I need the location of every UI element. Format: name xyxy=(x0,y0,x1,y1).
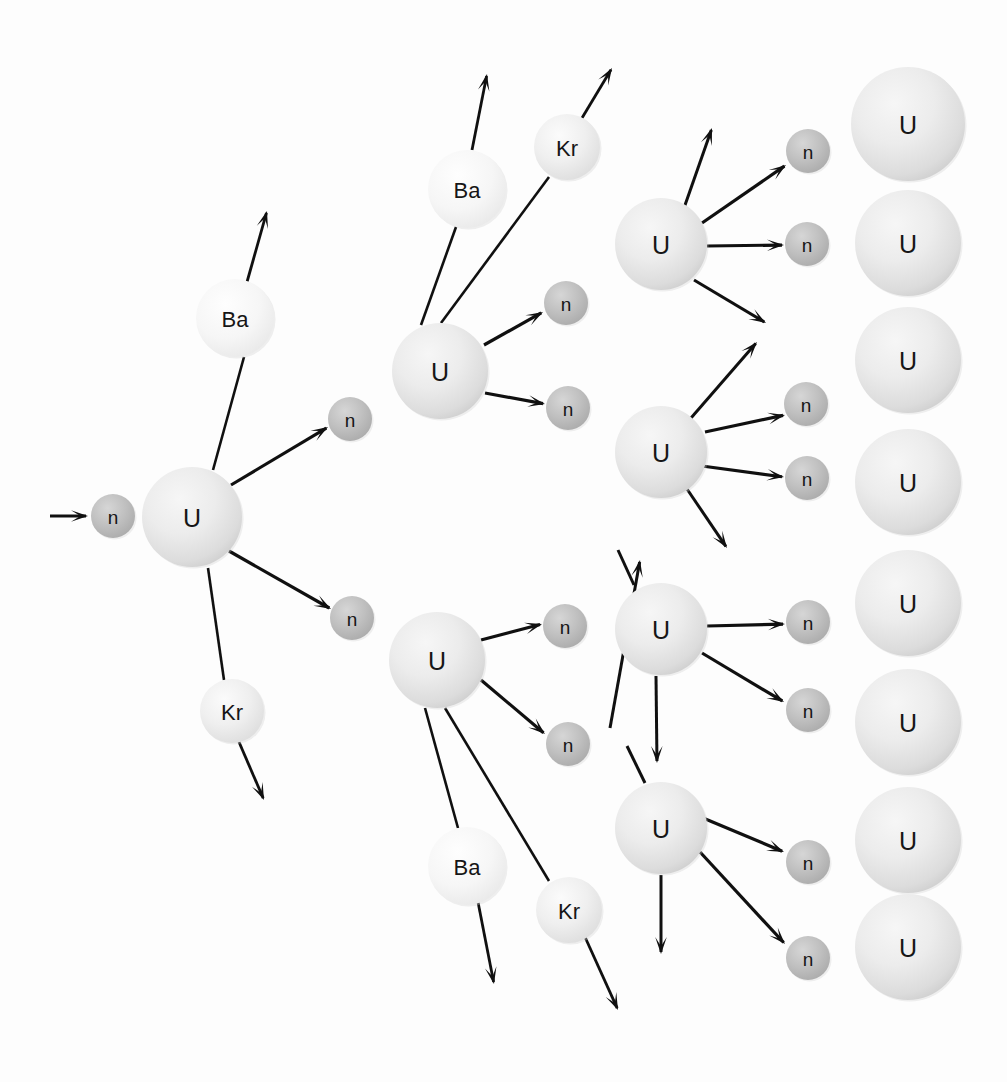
sphere-uranium[interactable] xyxy=(615,583,707,675)
sphere-uranium[interactable] xyxy=(855,190,961,296)
sphere-neutron[interactable] xyxy=(330,596,374,640)
sphere-barium[interactable] xyxy=(196,279,274,357)
sphere-uranium[interactable] xyxy=(855,307,961,413)
sphere-neutron[interactable] xyxy=(785,222,829,266)
sphere-neutron[interactable] xyxy=(786,600,830,644)
sphere-uranium[interactable] xyxy=(615,782,707,874)
sphere-uranium[interactable] xyxy=(855,669,961,775)
sphere-uranium[interactable] xyxy=(389,612,485,708)
sphere-uranium[interactable] xyxy=(142,467,242,567)
sphere-uranium[interactable] xyxy=(392,323,488,419)
fission-chain-diagram: nUBaKrnnUBaKrnnUBaKrnnUnnUnnUnnUnnUUUUUU… xyxy=(0,0,1007,1082)
sphere-neutron[interactable] xyxy=(328,397,372,441)
sphere-neutron[interactable] xyxy=(784,382,828,426)
sphere-barium[interactable] xyxy=(428,150,506,228)
sphere-neutron[interactable] xyxy=(786,688,830,732)
sphere-neutron[interactable] xyxy=(786,129,830,173)
sphere-uranium[interactable] xyxy=(855,787,961,893)
sphere-krypton[interactable] xyxy=(536,877,602,943)
sphere-uranium[interactable] xyxy=(855,429,961,535)
sphere-uranium[interactable] xyxy=(851,67,965,181)
sphere-uranium[interactable] xyxy=(855,550,961,656)
ray-shaft xyxy=(707,624,783,626)
sphere-neutron[interactable] xyxy=(786,936,830,980)
sphere-krypton[interactable] xyxy=(534,114,600,180)
sphere-krypton[interactable] xyxy=(200,679,264,743)
sphere-barium[interactable] xyxy=(428,827,506,905)
chain-reaction-canvas: nUBaKrnnUBaKrnnUBaKrnnUnnUnnUnnUnnUUUUUU… xyxy=(0,0,1007,1082)
sphere-neutron[interactable] xyxy=(544,281,588,325)
sphere-uranium[interactable] xyxy=(615,406,707,498)
ray-shaft xyxy=(656,676,657,761)
sphere-neutron[interactable] xyxy=(91,494,135,538)
sphere-neutron[interactable] xyxy=(786,840,830,884)
sphere-neutron[interactable] xyxy=(543,604,587,648)
sphere-uranium[interactable] xyxy=(615,198,707,290)
sphere-neutron[interactable] xyxy=(546,386,590,430)
ray-shaft xyxy=(707,245,782,246)
sphere-neutron[interactable] xyxy=(546,722,590,766)
sphere-uranium[interactable] xyxy=(855,894,961,1000)
sphere-neutron[interactable] xyxy=(785,456,829,500)
